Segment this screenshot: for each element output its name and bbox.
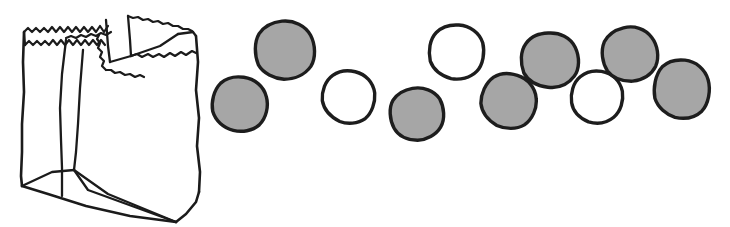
counter-3-shape <box>317 65 380 128</box>
bag-rim-top-right-corner <box>178 32 193 34</box>
counter-7-shape <box>520 31 581 89</box>
counter-3 <box>317 65 380 128</box>
counter-5 <box>428 23 486 81</box>
counter-1 <box>209 73 271 134</box>
counter-7 <box>520 31 581 89</box>
illustration-svg: Paper bag with ten counters Hand-drawn b… <box>0 0 730 227</box>
bag-right-edge <box>196 36 200 192</box>
illustration-canvas: Paper bag with ten counters Hand-drawn b… <box>0 0 730 227</box>
counter-10 <box>651 57 712 121</box>
counter-2-shape <box>252 18 317 82</box>
counter-1-shape <box>209 73 271 134</box>
counter-4 <box>386 84 448 145</box>
bag-inner-flap-right-edge <box>128 16 131 56</box>
counter-10-shape <box>651 57 712 121</box>
counter-row <box>209 18 712 144</box>
bag-front-panel-fill <box>60 36 196 222</box>
counter-2 <box>252 18 317 82</box>
bag-rim-join-left <box>24 32 25 45</box>
paper-bag <box>21 16 200 222</box>
counter-5-shape <box>428 23 486 81</box>
bag-top-zigzag-right <box>128 16 192 31</box>
bag-top-zigzag-back <box>24 26 108 32</box>
counter-4-shape <box>386 84 448 145</box>
